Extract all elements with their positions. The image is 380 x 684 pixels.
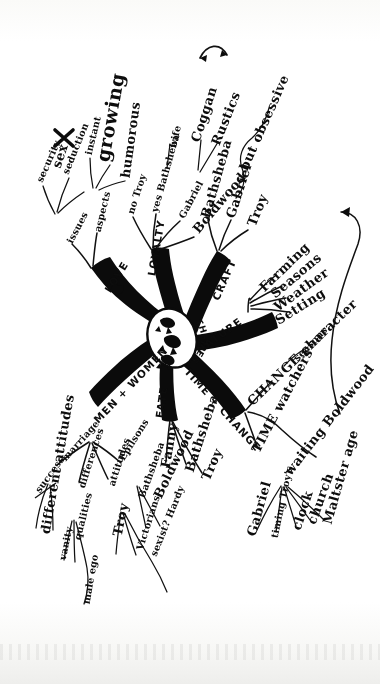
coggan-rustics-double-arrow-icon bbox=[200, 46, 227, 62]
leaf-troy-craft: Troy bbox=[244, 192, 270, 229]
leaf-issues: issues bbox=[64, 210, 90, 245]
twig-craft-b bbox=[219, 220, 231, 250]
twig-aspects-b bbox=[96, 165, 110, 188]
twig-loyalty-a bbox=[133, 217, 151, 249]
twig-issues-b bbox=[57, 178, 69, 212]
leaf-different-attitudes: different attitudes bbox=[38, 393, 77, 535]
twig-craft-a bbox=[208, 220, 217, 251]
twig-issues bbox=[43, 186, 55, 214]
leaf-but-obsessive: but obsessive bbox=[236, 72, 292, 172]
leaf-vanity: vanity bbox=[56, 526, 74, 562]
branch-love[interactable]: LOVE issues security seduction sex aspec… bbox=[34, 71, 143, 296]
mindmap-svg: THEMES LOVE issues security seduction se… bbox=[0, 0, 380, 684]
twig-love-split-2 bbox=[93, 233, 97, 266]
leaf-male-ego: male ego bbox=[81, 553, 101, 605]
leaf-aspects: aspects bbox=[92, 190, 113, 233]
mindmap-canvas: THEMES LOVE issues security seduction se… bbox=[0, 0, 380, 684]
leaf-qualities: qualities bbox=[72, 491, 94, 541]
twig-aspects bbox=[90, 158, 93, 188]
twig-aspects-c bbox=[99, 181, 125, 190]
branch-loyalty[interactable]: LOYALTY no Troy yes Bathsheba wife Gabri… bbox=[125, 46, 292, 277]
twig-love-split bbox=[72, 244, 91, 268]
sex-cross-out-icon bbox=[55, 130, 73, 146]
